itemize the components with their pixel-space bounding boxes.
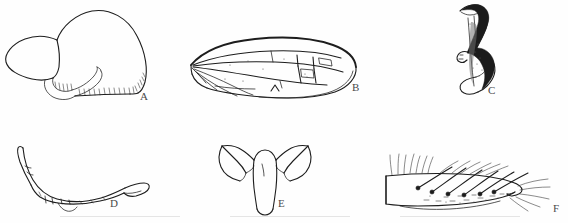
- panel-e-drawing: [200, 138, 320, 218]
- panel-c-hooked-sclerite: C: [430, 0, 540, 110]
- panel-label-d: D: [110, 198, 118, 209]
- panel-b-wing: B: [185, 25, 370, 105]
- panel-f-drawing: [360, 140, 560, 220]
- panel-b-drawing: [185, 25, 370, 105]
- panel-label-a: A: [140, 91, 148, 102]
- panel-label-b: B: [352, 82, 360, 93]
- panel-label-e: E: [278, 198, 285, 209]
- panel-f-stout-setae: [416, 167, 528, 197]
- panel-d-curved-appendage: D: [5, 140, 165, 215]
- panel-f-fine-hairs-left: [390, 154, 433, 175]
- panel-d-drawing: [5, 140, 165, 215]
- panel-f-leg-segment: F: [360, 140, 560, 220]
- scan-artifact-left: [60, 216, 180, 217]
- panel-c-drawing: [430, 0, 540, 110]
- scan-artifact-mid: [230, 216, 350, 217]
- panel-label-c: C: [488, 85, 496, 96]
- figure-plate: A: [0, 0, 568, 223]
- panel-a-head-capsule: A: [0, 0, 170, 115]
- panel-label-f: F: [553, 203, 560, 214]
- scan-artifact-right: [400, 216, 520, 217]
- panel-e-anchor-sclerite: E: [200, 138, 320, 218]
